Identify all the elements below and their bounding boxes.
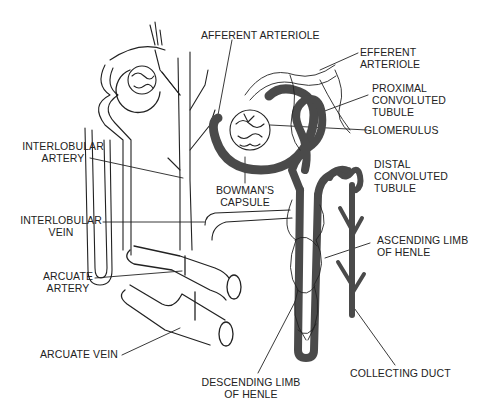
label-arcuate-vein: ARCUATE VEIN <box>40 348 118 360</box>
label-proximal-line2: CONVOLUTED <box>372 94 446 106</box>
interlobular-vein <box>205 210 292 240</box>
label-proximal-line1: PROXIMAL <box>372 82 427 94</box>
label-bowmans-capsule-line1: BOWMAN'S <box>214 184 276 196</box>
label-interlobular-vein-line1: INTERLOBULAR <box>16 214 106 226</box>
label-proximal-line3: TUBULE <box>372 106 414 118</box>
label-glomerulus: GLOMERULUS <box>364 124 439 136</box>
label-ascending-limb-line1: ASCENDING LIMB <box>377 234 468 246</box>
label-arcuate-artery-line2: ARTERY <box>38 282 98 294</box>
collecting-duct <box>338 185 364 315</box>
label-efferent-arteriole-line2: ARTERIOLE <box>360 58 420 70</box>
label-collecting-duct: COLLECTING DUCT <box>350 367 451 379</box>
label-interlobular-vein-line2: VEIN <box>16 226 106 238</box>
label-arcuate-artery-line1: ARCUATE <box>38 270 98 282</box>
label-descending-limb-line2: OF HENLE <box>196 388 306 400</box>
label-efferent-arteriole-line1: EFFERENT <box>360 46 416 58</box>
label-descending-limb-line1: DESCENDING LIMB <box>196 376 306 388</box>
upper-glomerulus <box>99 47 165 255</box>
label-afferent-arteriole: AFFERENT ARTERIOLE <box>201 29 320 41</box>
label-interlobular-artery-line2: ARTERY <box>18 152 108 164</box>
label-distal-line2: CONVOLUTED <box>374 170 448 182</box>
label-ascending-limb-line2: OF HENLE <box>377 246 430 258</box>
label-bowmans-capsule-line2: CAPSULE <box>214 196 276 208</box>
arcuate-vessels <box>121 246 241 346</box>
interlobular-artery-tree <box>150 22 215 250</box>
label-interlobular-artery-line1: INTERLOBULAR <box>18 140 108 152</box>
label-distal-line1: DISTAL <box>374 158 411 170</box>
label-distal-line3: TUBULE <box>374 182 416 194</box>
